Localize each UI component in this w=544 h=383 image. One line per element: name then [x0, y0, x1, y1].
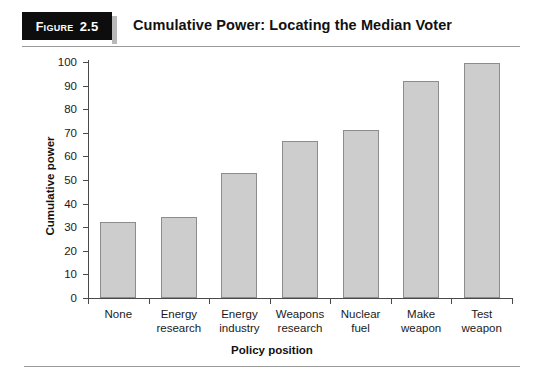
- x-axis-line: [88, 298, 513, 299]
- figure-number-badge: Figure 2.5: [22, 12, 112, 40]
- bar: [403, 81, 439, 298]
- bar: [161, 217, 197, 298]
- figure-header: Figure 2.5 Cumulative Power: Locating th…: [0, 0, 544, 46]
- x-axis-label: None: [88, 307, 149, 321]
- figure-title: Cumulative Power: Locating the Median Vo…: [133, 17, 452, 33]
- x-axis-tick: [149, 299, 150, 304]
- x-axis-label-line: Nuclear: [330, 307, 391, 321]
- bar: [221, 173, 257, 298]
- figure-label: Figure: [36, 20, 74, 34]
- x-axis-label-line: industry: [209, 321, 270, 335]
- x-axis-tick: [209, 299, 210, 304]
- header-divider: [22, 46, 520, 47]
- y-axis-tick-label: 100: [51, 56, 77, 68]
- bar: [343, 130, 379, 298]
- bar: [282, 141, 318, 298]
- x-axis-label-line: Weapons: [270, 307, 331, 321]
- x-axis-tick: [270, 299, 271, 304]
- x-axis-label: Energyindustry: [209, 307, 270, 335]
- x-axis-label: Nuclearfuel: [330, 307, 391, 335]
- figure-number: 2.5: [80, 19, 99, 34]
- y-axis-title: Cumulative power: [44, 106, 56, 266]
- badge-shadow: [112, 16, 117, 44]
- x-axis-label: Testweapon: [451, 307, 512, 335]
- y-axis-tick-label: 90: [51, 80, 77, 92]
- x-axis-label-line: weapon: [451, 321, 512, 335]
- x-axis-label-line: research: [149, 321, 210, 335]
- figure-badge-text: Figure 2.5: [36, 19, 99, 34]
- bar: [464, 63, 500, 298]
- footer-divider: [24, 366, 520, 367]
- x-axis-title: Policy position: [0, 344, 544, 356]
- x-axis-label: Weaponsresearch: [270, 307, 331, 335]
- x-axis-label-line: fuel: [330, 321, 391, 335]
- x-axis-tick: [451, 299, 452, 304]
- bar: [100, 222, 136, 298]
- bar-chart: 0102030405060708090100 NoneEnergyresearc…: [0, 48, 544, 358]
- x-axis-label-line: research: [270, 321, 331, 335]
- x-axis-tick: [88, 299, 89, 304]
- x-axis-label-line: Make: [391, 307, 452, 321]
- x-axis-tick: [330, 299, 331, 304]
- x-axis-label-line: None: [88, 307, 149, 321]
- x-axis-label: Energyresearch: [149, 307, 210, 335]
- x-axis-label: Makeweapon: [391, 307, 452, 335]
- x-axis-tick: [391, 299, 392, 304]
- plot-area: [88, 62, 512, 298]
- x-axis-label-line: Energy: [149, 307, 210, 321]
- y-axis-tick-label: 0: [51, 292, 77, 304]
- x-axis-label-line: Energy: [209, 307, 270, 321]
- x-axis-label-line: Test: [451, 307, 512, 321]
- x-axis-tick: [512, 299, 513, 304]
- x-axis-label-line: weapon: [391, 321, 452, 335]
- y-axis-tick-label: 10: [51, 268, 77, 280]
